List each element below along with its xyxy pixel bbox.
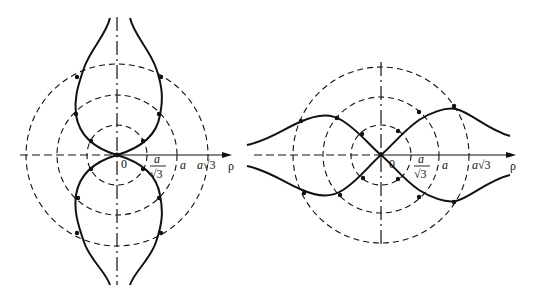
curve-lower-left bbox=[75, 155, 117, 285]
tick-label-r1-numerator: a bbox=[418, 152, 424, 166]
tick-label-r1-denominator: √3 bbox=[150, 167, 163, 181]
tick-label-r2: a bbox=[442, 158, 448, 172]
tick-label-r3-root: √3 bbox=[203, 158, 216, 172]
rho-axis-label: ρ bbox=[228, 159, 234, 173]
figure-canvas: 0 a √3 a a √3 ρ 0 bbox=[0, 0, 533, 303]
left-diagram: 0 a √3 a a √3 ρ bbox=[20, 17, 234, 285]
origin-label: 0 bbox=[121, 157, 127, 171]
origin-label: 0 bbox=[389, 157, 395, 171]
rho-axis-label: ρ bbox=[510, 159, 516, 173]
arrow-icon bbox=[222, 152, 232, 158]
tick-label-r1-denominator: √3 bbox=[414, 167, 427, 181]
tick-label-r1-numerator: a bbox=[154, 152, 160, 166]
tick-label-r2: a bbox=[180, 158, 186, 172]
tick-label-r3-root: √3 bbox=[478, 158, 491, 172]
arrow-icon bbox=[506, 152, 516, 158]
curve-upper-left bbox=[75, 18, 117, 155]
right-diagram: 0 a √3 a a √3 ρ bbox=[247, 62, 516, 248]
